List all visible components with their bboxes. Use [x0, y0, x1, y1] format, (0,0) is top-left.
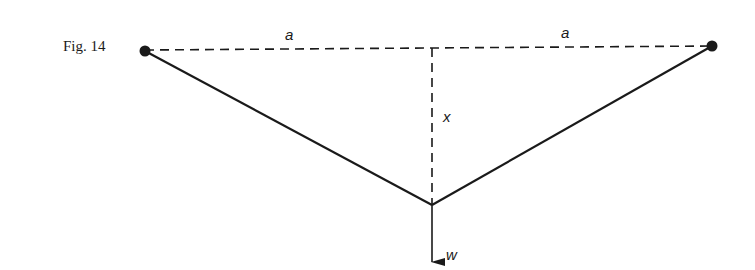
- left-span-label: a: [285, 26, 293, 43]
- left-support-pivot: [140, 46, 151, 57]
- horizontal-dashed-line: [145, 46, 712, 50]
- left-string: [145, 51, 432, 205]
- sag-label: x: [442, 108, 451, 125]
- figure-caption: Fig. 14: [63, 38, 106, 54]
- weight-label: w: [446, 246, 458, 263]
- right-support-pivot: [707, 41, 718, 52]
- right-string: [432, 46, 712, 205]
- right-span-label: a: [561, 24, 569, 41]
- diagram-canvas: Fig. 14 a a x w: [0, 0, 755, 270]
